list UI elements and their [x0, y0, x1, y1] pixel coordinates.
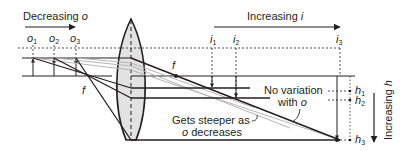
image-label-2: i2 — [233, 33, 239, 46]
height-dot-2 — [349, 99, 352, 102]
object-label-2: o2 — [49, 32, 59, 45]
increasing-h-label: Increasing h — [382, 80, 394, 140]
no-variation-label-line1: No variation — [264, 84, 323, 96]
decreasing-o-label: Decreasing o — [23, 10, 88, 22]
steeper-label-line1: Gets steeper as — [172, 114, 250, 126]
focal-point-right — [174, 74, 178, 78]
height-dot-1 — [349, 90, 352, 93]
no-variation-label-line2: with o — [277, 96, 307, 108]
focal-label-left: f — [82, 84, 86, 96]
focal-label-right: f — [172, 59, 176, 71]
thin-lens-diagram: f f Decreasing o Increasing i Increasing… — [0, 0, 405, 151]
no-variation-leader — [292, 109, 300, 122]
object-label-3: o3 — [70, 32, 80, 45]
steeper-label-line2: o decreases — [182, 126, 242, 138]
steeper-leader — [252, 115, 257, 121]
object-label-1: o1 — [27, 32, 37, 45]
height-label-3: h3 — [355, 133, 365, 146]
increasing-i-label: Increasing i — [247, 10, 304, 22]
image-point-3 — [335, 138, 339, 142]
image-label-1: i1 — [210, 33, 216, 46]
image-label-3: i3 — [336, 33, 342, 46]
height-dot-3 — [349, 139, 352, 142]
